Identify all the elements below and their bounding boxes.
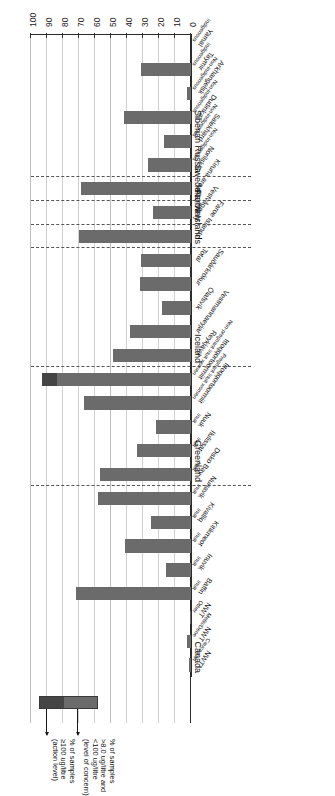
axis-tick xyxy=(62,33,63,38)
bar-segment-level-of-concern xyxy=(130,325,191,338)
category-label: Total xyxy=(194,246,209,263)
group-bracket xyxy=(191,367,192,486)
stacked-bar xyxy=(151,516,191,529)
stacked-bar xyxy=(141,63,191,76)
legend-entry-action-level: % of samples≥100 ug/litre(action level) xyxy=(50,739,76,783)
bar-row xyxy=(31,135,191,148)
group-bracket xyxy=(191,248,192,367)
axis-tick-label: 80 xyxy=(60,18,70,27)
bar-segment-level-of-concern xyxy=(151,516,191,529)
bar-segment-level-of-concern xyxy=(100,468,191,481)
bar-row xyxy=(31,349,191,362)
group-separator xyxy=(31,200,251,201)
legend-text-line: (level of concern) xyxy=(81,739,90,796)
group-label: Canada xyxy=(193,641,203,673)
bar-segment-level-of-concern xyxy=(98,492,191,505)
bar-row xyxy=(31,182,191,195)
legend-leader-line xyxy=(77,709,78,735)
bar-segment-level-of-concern xyxy=(140,277,191,290)
bar-segment-action-level xyxy=(42,373,56,386)
stacked-bar xyxy=(140,277,191,290)
bar-row xyxy=(31,444,191,457)
axis-tick xyxy=(94,33,95,38)
value-axis-line xyxy=(31,34,191,35)
bar-segment-level-of-concern xyxy=(79,230,191,243)
bar-segment-level-of-concern xyxy=(141,63,191,76)
bar-row xyxy=(31,39,191,52)
bar-row xyxy=(31,492,191,505)
axis-tick-label: 60 xyxy=(92,18,102,27)
group-bracket xyxy=(191,201,192,225)
bar-row xyxy=(31,206,191,219)
stacked-bar xyxy=(148,158,191,171)
axis-tick-label: 30 xyxy=(140,18,150,27)
stacked-bar xyxy=(153,206,191,219)
legend-text-line: ≥100 ug/litre xyxy=(59,739,68,783)
bar-row xyxy=(31,611,191,624)
bar-segment-level-of-concern xyxy=(137,444,191,457)
category-label: BaffinInuit xyxy=(191,572,213,595)
bar-segment-level-of-concern xyxy=(153,206,191,219)
stacked-bar xyxy=(100,468,191,481)
stacked-bar xyxy=(137,444,191,457)
bar-row xyxy=(31,87,191,100)
bar-row xyxy=(31,516,191,529)
bar-segment-level-of-concern xyxy=(76,587,191,600)
bar-row xyxy=(31,396,191,409)
axis-tick xyxy=(158,33,159,38)
axis-tick-label: 10 xyxy=(172,18,182,27)
stacked-bar xyxy=(98,492,191,505)
axis-tick xyxy=(30,33,31,38)
group-label: Iceland xyxy=(193,334,203,363)
axis-tick-label: 20 xyxy=(156,18,166,27)
stacked-bar xyxy=(113,349,191,362)
bar-row xyxy=(31,63,191,76)
bar-row xyxy=(31,658,191,671)
bar-segment-level-of-concern xyxy=(57,373,191,386)
stacked-bar xyxy=(125,539,191,552)
bar-segment-level-of-concern xyxy=(81,182,191,195)
axis-tick-label: 100 xyxy=(28,13,38,27)
bar-row xyxy=(31,373,191,386)
group-label: Greenland xyxy=(193,440,203,482)
legend-text-line: % of samples xyxy=(107,739,116,796)
group-label: Siberian Russia xyxy=(193,110,203,173)
bar-row xyxy=(31,563,191,576)
axis-tick-label: 40 xyxy=(124,18,134,27)
stacked-bar xyxy=(162,301,191,314)
stacked-bar xyxy=(124,111,191,124)
axis-tick xyxy=(142,33,143,38)
stacked-bar xyxy=(130,325,191,338)
stacked-bar xyxy=(156,420,191,433)
axis-tick xyxy=(78,33,79,38)
legend-text-line: >8.0 ug/litre and xyxy=(99,739,108,796)
bar-segment-level-of-concern xyxy=(113,349,191,362)
bar-segment-level-of-concern xyxy=(125,539,191,552)
legend-text-line: <100 ug/litre xyxy=(90,739,99,796)
bar-segment-level-of-concern xyxy=(148,158,191,171)
bar-segment-level-of-concern xyxy=(141,254,191,267)
axis-tick xyxy=(174,33,175,38)
legend-swatch-level-of-concern xyxy=(64,697,97,708)
category-label: InuvikInuit xyxy=(191,548,213,572)
group-separator xyxy=(31,176,251,177)
group-bracket xyxy=(191,225,192,249)
bar-row xyxy=(31,325,191,338)
bar-row xyxy=(31,277,191,290)
stacked-bar xyxy=(76,587,191,600)
bar-row xyxy=(31,111,191,124)
stacked-bar xyxy=(166,563,191,576)
stacked-bar xyxy=(164,135,191,148)
stacked-bar xyxy=(79,230,191,243)
bar-row xyxy=(31,158,191,171)
stacked-bar xyxy=(81,182,191,195)
bar-row xyxy=(31,230,191,243)
axis-tick-label: 70 xyxy=(76,18,86,27)
legend-entry-level-of-concern: % of samples>8.0 ug/litre and<100 ug/lit… xyxy=(81,739,116,796)
stacked-bar xyxy=(84,396,191,409)
axis-tick xyxy=(126,33,127,38)
axis-tick xyxy=(110,33,111,38)
axis-tick-label: 0 xyxy=(188,22,198,27)
group-bracket xyxy=(191,486,192,677)
